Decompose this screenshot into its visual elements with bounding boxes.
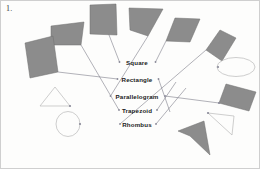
shape-trapezoid-topmid[interactable] <box>129 8 163 36</box>
connector-square-right-to-plgm[interactable] <box>156 41 167 62</box>
connector-trapezoid-right-up[interactable] <box>157 82 176 110</box>
parallelogram-right-dot[interactable] <box>164 95 166 97</box>
question-number: 1. <box>6 4 12 13</box>
shape-rhombus-topright[interactable] <box>206 30 236 61</box>
shape-rect-tilted-right[interactable] <box>219 84 256 111</box>
shape-label-square[interactable]: Square <box>126 59 148 66</box>
shape-square-top[interactable] <box>90 4 117 35</box>
shape-ellipse-right[interactable] <box>217 58 255 77</box>
shape-circle-left[interactable] <box>56 112 80 137</box>
connector-square-to-trapezoid-left[interactable] <box>81 45 119 110</box>
dot-triangle-left[interactable] <box>69 105 71 107</box>
connector-rectangle-to-rect-left[interactable] <box>58 72 118 79</box>
connector-parallelogram-right-to-rect[interactable] <box>165 96 219 103</box>
shape-label-trapezoid[interactable]: Trapezoid <box>122 107 152 114</box>
rhombus-right-dot[interactable] <box>155 123 157 125</box>
shape-triangle-left[interactable] <box>40 87 70 106</box>
shape-dart-bottom[interactable] <box>178 121 210 155</box>
dot-rect-right[interactable] <box>218 102 220 104</box>
shape-triangle-right[interactable] <box>208 113 234 135</box>
rectangle-right-dot[interactable] <box>158 78 160 80</box>
shape-label-parallelogram[interactable]: Parallelogram <box>116 93 159 100</box>
rectangle-left-dot[interactable] <box>117 78 119 80</box>
connector-rectangle-right-down[interactable] <box>159 79 171 112</box>
dot-circle-left[interactable] <box>79 123 81 125</box>
shapes-canvas <box>0 0 260 169</box>
square-right-dot[interactable] <box>155 61 157 63</box>
shape-label-rhombus[interactable]: Rhombus <box>122 121 152 128</box>
dot-ellipse-right[interactable] <box>217 66 219 68</box>
parallelogram-left-dot[interactable] <box>110 95 112 97</box>
shape-label-rectangle[interactable]: Rectangle <box>122 76 153 83</box>
worksheet-page: 1. SquareRectangleParallelogramTrapezoid… <box>0 0 260 169</box>
shape-parallelogram-top[interactable] <box>166 18 200 42</box>
shape-trapezoid-topleft[interactable] <box>51 22 84 45</box>
dot-triangle-right[interactable] <box>207 112 209 114</box>
trapezoid-left-dot[interactable] <box>118 109 120 111</box>
trapezoid-right-dot[interactable] <box>156 109 158 111</box>
connector-rhombus-right-up[interactable] <box>156 88 186 124</box>
connector-parallelogram-to-tzmid[interactable] <box>111 36 149 96</box>
square-left-dot[interactable] <box>119 61 121 63</box>
rhombus-left-dot[interactable] <box>119 123 121 125</box>
shape-rect-tilted-left[interactable] <box>25 36 58 78</box>
